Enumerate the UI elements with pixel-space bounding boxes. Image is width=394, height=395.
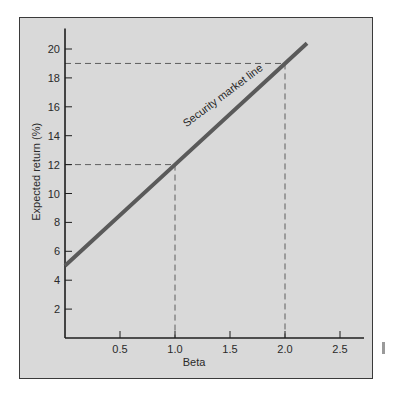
- y-tick-label: 2: [54, 303, 60, 315]
- y-axis-title: Expected return (%): [30, 123, 42, 221]
- x-tick-label: 1.5: [222, 343, 237, 355]
- page-margin-mark: [382, 342, 385, 354]
- y-tick-label: 8: [54, 216, 60, 228]
- data-series: [65, 43, 307, 266]
- y-tick-label: 20: [48, 43, 60, 55]
- x-tick-label: 1.0: [167, 343, 182, 355]
- y-axis-ticks: 2468101214161820: [48, 43, 72, 315]
- y-tick-label: 4: [54, 274, 60, 286]
- y-tick-label: 12: [48, 159, 60, 171]
- y-tick-label: 18: [48, 72, 60, 84]
- y-tick-label: 10: [48, 188, 60, 200]
- y-tick-label: 6: [54, 245, 60, 257]
- y-tick-label: 14: [48, 130, 60, 142]
- x-axis-title: Beta: [183, 356, 207, 368]
- x-tick-label: 0.5: [112, 343, 127, 355]
- y-tick-label: 16: [48, 101, 60, 113]
- security-market-line: [65, 43, 307, 266]
- x-tick-label: 2.0: [277, 343, 292, 355]
- x-axis-ticks: 0.51.01.52.02.5: [112, 331, 347, 355]
- x-tick-label: 2.5: [332, 343, 347, 355]
- security-market-line-chart: 2468101214161820 0.51.01.52.02.5 Securit…: [0, 0, 394, 395]
- axes: [65, 29, 364, 338]
- dashed-guides: [65, 63, 285, 338]
